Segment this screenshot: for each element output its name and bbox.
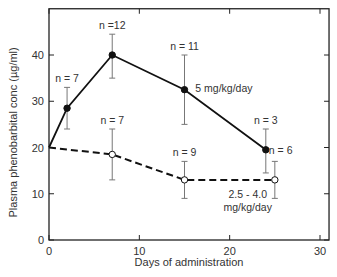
n-label: n = 7	[55, 72, 79, 84]
y-tick-label: 40	[32, 49, 44, 61]
y-tick-label: 20	[32, 142, 44, 154]
data-point	[109, 52, 115, 58]
data-point	[64, 105, 70, 111]
n-label: n = 7	[100, 114, 124, 126]
n-label: n = 6	[269, 144, 293, 156]
y-tick-label: 30	[32, 95, 44, 107]
series-annotation: 5 mg/kg/day	[195, 82, 253, 94]
x-axis-label: Days of administration	[135, 256, 244, 268]
n-label: n = 9	[173, 146, 197, 158]
n-label: n = 11	[170, 40, 199, 52]
y-axis-label: Plasma phenobarbital conc (µg/ml)	[7, 47, 19, 217]
series-annotation: mg/kg/day	[224, 201, 273, 213]
chart: 0102030400102030Days of administrationPl…	[0, 0, 337, 277]
series-high-dose-line	[49, 55, 266, 150]
data-point	[272, 177, 278, 183]
x-tick-label: 30	[314, 245, 326, 257]
data-point	[181, 177, 187, 183]
n-label: n = 3	[254, 114, 278, 126]
n-label: n =12	[99, 19, 126, 31]
x-tick-label: 0	[46, 245, 52, 257]
y-tick-label: 10	[32, 188, 44, 200]
y-tick-label: 0	[38, 234, 44, 246]
data-point	[109, 151, 115, 157]
series-annotation: 2.5 - 4.0	[228, 188, 267, 200]
series-low-dose-line	[49, 148, 275, 180]
data-point	[181, 86, 187, 92]
